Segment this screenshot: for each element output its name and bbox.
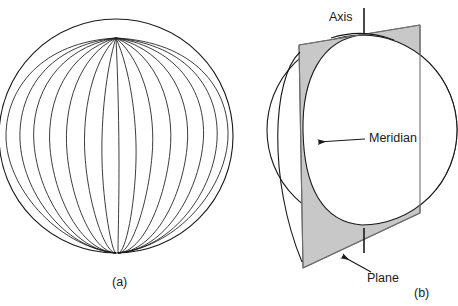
plane-leader-line xyxy=(342,256,371,272)
figure-meridian-diagram: Axis Meridian Plane (a) (b) xyxy=(0,0,458,306)
figure-canvas xyxy=(0,0,458,306)
panel-a-sphere-group xyxy=(0,19,233,253)
label-axis: Axis xyxy=(329,11,353,24)
caption-panel-a: (a) xyxy=(112,276,127,289)
label-plane: Plane xyxy=(367,272,399,285)
caption-panel-b: (b) xyxy=(414,287,429,300)
sphere-front-half xyxy=(303,35,457,225)
label-meridian: Meridian xyxy=(369,132,417,145)
meridian-curves-a xyxy=(6,38,228,253)
panel-b-plane-group xyxy=(267,8,457,272)
